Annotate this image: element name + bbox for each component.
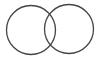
venn-circle-left: [7, 6, 56, 55]
venn-diagram: [0, 0, 100, 58]
venn-circle-right: [45, 5, 94, 54]
